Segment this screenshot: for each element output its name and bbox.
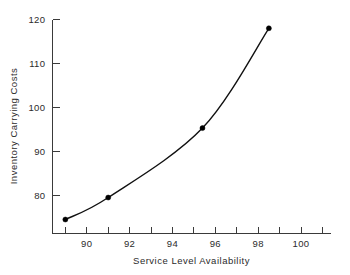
x-tick-label: 96	[210, 238, 221, 249]
x-axis-title: Service Level Availability	[133, 255, 250, 266]
chart-plot-svg: 8090100110120 9092949698100 Service Leve…	[0, 0, 350, 275]
y-axis-ticks	[53, 20, 60, 196]
x-tick-label: 100	[292, 238, 309, 249]
x-tick-label: 92	[124, 238, 135, 249]
y-tick-label: 100	[28, 102, 45, 113]
x-tick-label: 94	[167, 238, 178, 249]
data-series-curve	[65, 28, 269, 219]
x-axis-tick-labels: 9092949698100	[81, 238, 309, 249]
y-axis-tick-labels: 8090100110120	[28, 14, 45, 201]
x-axis-ticks	[65, 227, 322, 234]
y-tick-label: 80	[34, 190, 45, 201]
data-point-marker	[266, 26, 271, 31]
y-tick-label: 110	[29, 58, 45, 69]
y-axis-title: Inventory Carrying Costs	[8, 68, 19, 185]
y-tick-label: 90	[34, 146, 45, 157]
data-point-marker	[200, 126, 205, 131]
data-point-markers	[63, 26, 272, 222]
x-tick-label: 90	[81, 238, 92, 249]
axis-lines	[53, 20, 332, 234]
x-tick-label: 98	[252, 238, 263, 249]
data-point-marker	[106, 195, 111, 200]
chart-figure: 8090100110120 9092949698100 Service Leve…	[0, 0, 350, 275]
data-point-marker	[63, 217, 68, 222]
y-tick-label: 120	[28, 14, 45, 25]
